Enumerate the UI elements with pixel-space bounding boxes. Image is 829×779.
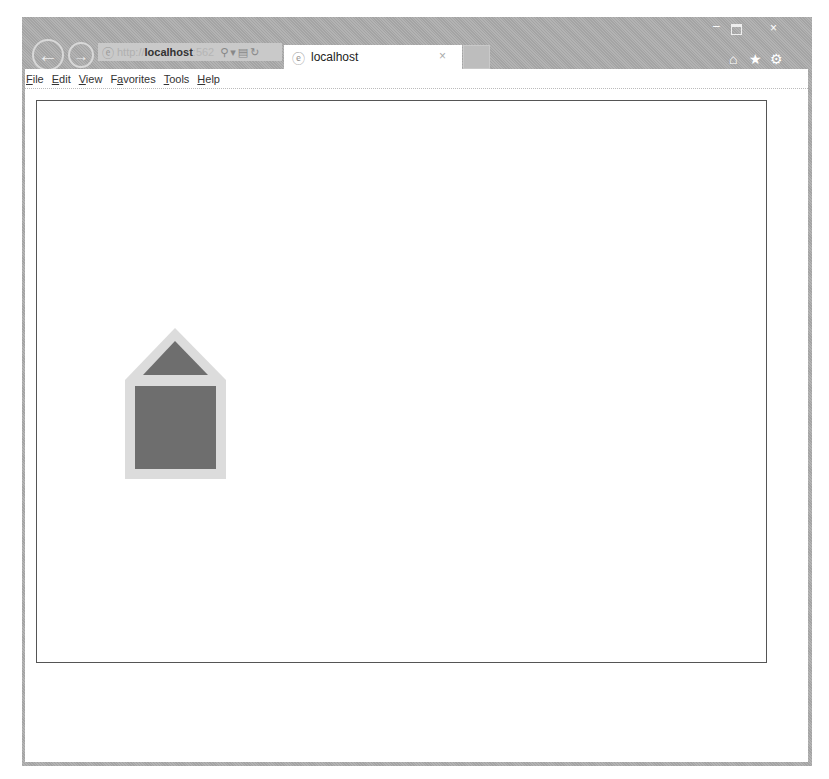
- tab-localhost[interactable]: ⓔ localhost ×: [284, 45, 462, 69]
- minimize-button[interactable]: –: [713, 19, 720, 33]
- search-icon[interactable]: ⚲: [220, 46, 230, 58]
- arrow-right-icon: →: [74, 47, 89, 64]
- compatibility-icon[interactable]: ▤: [238, 46, 250, 58]
- menu-edit[interactable]: Edit: [52, 73, 78, 85]
- house-shape[interactable]: [125, 328, 227, 480]
- tab-title: localhost: [311, 50, 358, 64]
- title-bar: ← → ⓔ http://localhost:562 ⚲▾▤↻ ⓔ localh…: [22, 17, 812, 69]
- url-host: localhost: [145, 46, 193, 58]
- home-icon[interactable]: ⌂: [729, 51, 737, 67]
- address-bar[interactable]: ⓔ http://localhost:562 ⚲▾▤↻: [98, 43, 282, 61]
- menu-tools[interactable]: Tools: [164, 73, 197, 85]
- menu-view[interactable]: View: [79, 73, 110, 85]
- chevron-down-icon[interactable]: ▾: [230, 46, 238, 58]
- refresh-icon[interactable]: ↻: [250, 46, 261, 58]
- gear-icon[interactable]: ⚙: [770, 51, 783, 67]
- menu-help[interactable]: Help: [197, 73, 227, 85]
- new-tab-button[interactable]: [463, 45, 490, 69]
- arrow-left-icon: ←: [38, 44, 58, 67]
- ie-page-icon: ⓔ: [292, 48, 305, 67]
- back-button[interactable]: ←: [32, 39, 64, 71]
- menu-favorites[interactable]: Favorites: [110, 73, 162, 85]
- menu-bar: File Edit View Favorites Tools Help: [25, 69, 808, 89]
- page-content: [25, 89, 808, 762]
- favorites-icon[interactable]: ★: [749, 51, 762, 67]
- url-port: :562: [193, 46, 214, 58]
- body-square: [135, 386, 216, 469]
- tab-close-icon[interactable]: ×: [439, 49, 446, 63]
- maximize-button[interactable]: [731, 24, 742, 35]
- forward-button[interactable]: →: [68, 42, 94, 68]
- ie-page-icon: ⓔ: [102, 44, 114, 61]
- close-window-button[interactable]: ×: [770, 21, 777, 35]
- browser-window: ← → ⓔ http://localhost:562 ⚲▾▤↻ ⓔ localh…: [22, 17, 812, 766]
- menu-file[interactable]: File: [26, 73, 51, 85]
- drawing-canvas[interactable]: [36, 100, 767, 663]
- url-protocol: http://: [117, 46, 145, 58]
